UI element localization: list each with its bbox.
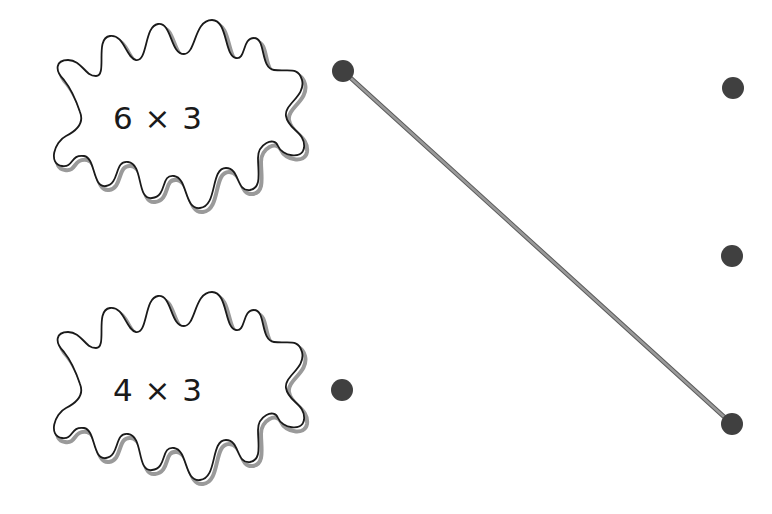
problem-dot-1[interactable]	[332, 60, 354, 82]
worksheet-drawing	[0, 0, 772, 514]
problem-expression-1: 6 × 3	[58, 100, 258, 136]
answer-dot-3[interactable]	[721, 413, 743, 435]
answer-dot-1[interactable]	[722, 77, 744, 99]
problem-expression-2: 4 × 3	[58, 372, 258, 408]
answer-dot-2[interactable]	[721, 245, 743, 267]
problem-dot-2[interactable]	[331, 379, 353, 401]
worksheet-canvas: 6 × 3 4 × 3	[0, 0, 772, 514]
connection-line[interactable]	[343, 71, 732, 424]
